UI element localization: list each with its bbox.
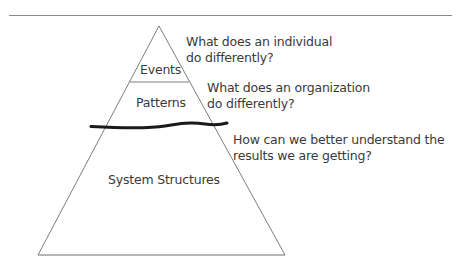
question-events-line1: What does an individual <box>186 34 332 50</box>
question-structures-line2: results we are getting? <box>233 148 372 164</box>
question-patterns-line1: What does an organization <box>207 80 370 96</box>
waterline <box>91 123 227 128</box>
question-structures-line1: How can we better understand the <box>233 132 444 148</box>
level-label-system-structures: System Structures <box>108 172 220 188</box>
level-label-patterns: Patterns <box>136 95 186 111</box>
pyramid-left-edge <box>38 26 159 255</box>
question-events-line2: do differently? <box>186 50 273 66</box>
level-label-events: Events <box>140 62 181 78</box>
question-patterns-line2: do differently? <box>207 96 294 112</box>
